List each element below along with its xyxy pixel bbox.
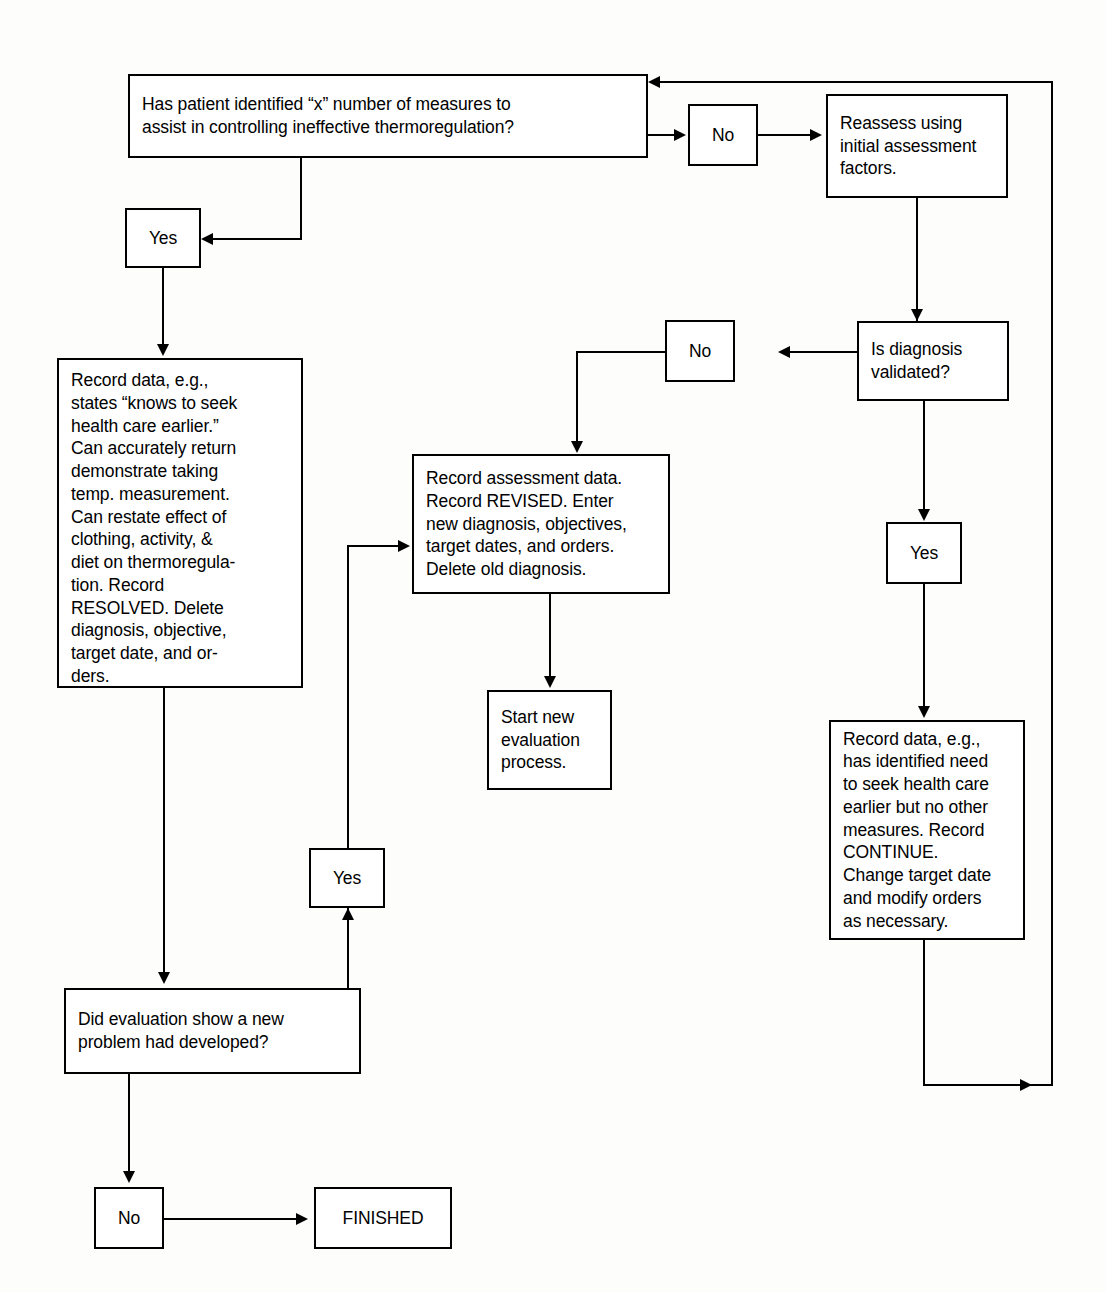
- edge-no2-left: [576, 351, 667, 353]
- node-start-new-evaluation: Start new evaluation process.: [487, 690, 612, 790]
- edge-yes-to-record-resolved: [162, 268, 164, 346]
- edge-yes-right-to-continue: [923, 584, 925, 708]
- node-record-resolved: Record data, e.g., states “knows to seek…: [57, 358, 303, 688]
- node-record-continue: Record data, e.g., has identified need t…: [829, 720, 1025, 940]
- arrowhead-no3-to-finished: [296, 1213, 308, 1225]
- flowchart-canvas: Has patient identified “x” number of mea…: [0, 0, 1106, 1292]
- edge-question-down-to-yes: [300, 158, 302, 240]
- edge-continue-right: [923, 1084, 1053, 1086]
- node-yes-middle: Yes: [309, 848, 385, 908]
- arrowhead-revised-to-start-new: [544, 676, 556, 688]
- edge-did-evaluation-to-yes-middle: [347, 908, 349, 990]
- arrowhead-yes-to-record-resolved: [157, 344, 169, 356]
- edge-question-left-to-yes: [213, 238, 302, 240]
- arrowhead-continue-feedback: [1020, 1079, 1032, 1091]
- edge-continue-down: [923, 940, 925, 1086]
- node-finished: FINISHED: [314, 1187, 452, 1249]
- node-yes-left: Yes: [125, 208, 201, 268]
- edge-question-to-no1: [648, 134, 676, 136]
- node-is-diagnosis-validated: Is diagnosis validated?: [857, 321, 1009, 401]
- edge-no1-to-reassess: [758, 134, 812, 136]
- node-no-2: No: [665, 320, 735, 382]
- edge-yes-middle-right-to-revised: [347, 545, 400, 547]
- edge-validated-to-yes-right: [923, 401, 925, 511]
- node-record-revised: Record assessment data. Record REVISED. …: [412, 454, 670, 594]
- node-question-measures: Has patient identified “x” number of mea…: [128, 74, 648, 158]
- arrowhead-validated-to-yes-right: [918, 509, 930, 521]
- arrowhead-validated-to-no2: [778, 346, 790, 358]
- arrowhead-reassess-to-validated: [911, 309, 923, 321]
- edge-no3-to-finished: [164, 1218, 298, 1220]
- edge-yes-middle-up: [347, 545, 349, 848]
- arrowhead-did-evaluation-to-no3: [123, 1171, 135, 1183]
- arrowhead-question-to-no1: [674, 129, 686, 141]
- edge-validated-to-no2: [790, 351, 857, 353]
- arrowhead-no2-to-revised: [571, 441, 583, 453]
- edge-did-evaluation-to-no3: [128, 1074, 130, 1173]
- arrowhead-no1-to-reassess: [810, 129, 822, 141]
- edge-feedback-right-rail: [1051, 81, 1053, 1086]
- edge-revised-to-start-new: [549, 594, 551, 678]
- arrowhead-question-to-yes: [201, 233, 213, 245]
- arrowhead-yes-right-to-continue: [918, 706, 930, 718]
- node-reassess: Reassess using initial assessment factor…: [826, 94, 1008, 198]
- edge-no2-down-to-revised: [576, 351, 578, 443]
- arrowhead-did-evaluation-to-yes-middle: [342, 908, 354, 920]
- node-did-evaluation: Did evaluation show a new problem had de…: [64, 988, 361, 1074]
- edge-resolved-to-did-evaluation: [163, 688, 165, 974]
- node-no-1: No: [688, 104, 758, 166]
- arrowhead-feedback-to-question: [648, 76, 660, 88]
- arrowhead-resolved-to-did-evaluation: [158, 972, 170, 984]
- node-no-3: No: [94, 1187, 164, 1249]
- edge-feedback-top: [660, 81, 1053, 83]
- edge-reassess-to-validated: [916, 198, 918, 321]
- arrowhead-yes-middle-to-revised: [398, 540, 410, 552]
- node-yes-right: Yes: [886, 522, 962, 584]
